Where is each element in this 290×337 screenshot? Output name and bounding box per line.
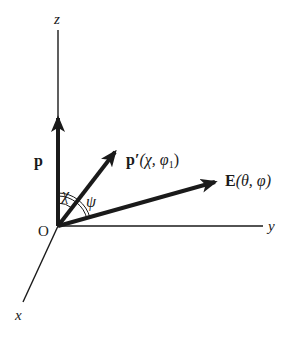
p-prime-symbol: p′ xyxy=(126,151,139,169)
vector-p-label: p xyxy=(34,152,43,170)
vector-p-prime-label: p′(χ, φ1) xyxy=(126,151,179,170)
y-axis-label: y xyxy=(266,218,275,234)
p-prime-close: ) xyxy=(174,151,179,169)
origin-label: O xyxy=(38,223,49,239)
E-symbol: E xyxy=(225,172,236,189)
x-axis-label: x xyxy=(14,307,22,323)
p-prime-args: (χ, φ xyxy=(139,151,168,169)
chi-angle-arc xyxy=(58,203,72,208)
E-args: (θ, φ) xyxy=(236,172,271,190)
vector-E xyxy=(58,182,215,226)
diagram-canvas: z y x O p p′(χ, φ1) E(θ, φ) χ ψ xyxy=(0,0,290,337)
chi-angle-label: χ xyxy=(60,186,70,204)
z-axis-label: z xyxy=(53,11,60,27)
psi-angle-label: ψ xyxy=(86,193,97,211)
vector-diagram: z y x O p p′(χ, φ1) E(θ, φ) χ ψ xyxy=(0,0,290,337)
vector-E-label: E(θ, φ) xyxy=(225,172,271,190)
